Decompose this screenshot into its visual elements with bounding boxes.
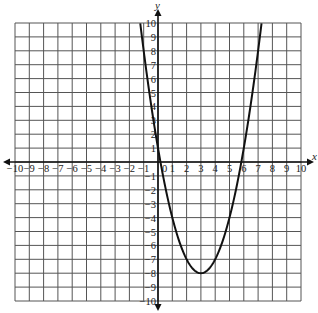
x-tick-label: 7 [255,163,260,174]
y-tick-label: −10 [140,296,156,307]
y-tick-label: −9 [145,282,156,293]
coordinate-plane-chart: −10−9−8−7−6−5−4−3−2−1012345678910−10−9−8… [0,0,318,313]
x-tick-label: −3 [110,163,121,174]
x-tick-label: 10 [296,163,307,174]
x-axis-label: x [311,150,317,162]
x-tick-label: 4 [213,163,219,174]
x-tick-label: −7 [52,163,63,174]
x-tick-label: 3 [198,163,203,174]
x-tick-label: −4 [95,163,107,174]
x-tick-label: 9 [284,163,289,174]
y-tick-label: 9 [151,32,156,43]
y-tick-label: 8 [151,46,156,57]
y-tick-label: −7 [145,254,156,265]
x-tick-label: −8 [38,163,49,174]
y-tick-label: −4 [145,213,157,224]
y-tick-label: −3 [145,199,156,210]
y-tick-label: 10 [146,18,157,29]
y-tick-label: 5 [151,88,156,99]
y-tick-label: −5 [145,227,156,238]
y-tick-label: −1 [145,171,156,182]
x-tick-label: 5 [227,163,232,174]
y-tick-label: 7 [151,60,156,71]
y-tick-label: −8 [145,268,156,279]
x-tick-label: −10 [7,163,23,174]
x-tick-label: 6 [241,163,246,174]
x-tick-label: 8 [270,163,275,174]
x-tick-label: −5 [81,163,92,174]
x-tick-label: −6 [67,163,78,174]
y-tick-label: −2 [145,185,156,196]
y-tick-label: 1 [151,143,156,154]
x-tick-label: 2 [184,163,189,174]
x-tick-label: −9 [24,163,35,174]
y-axis-label: y [154,0,160,11]
x-tick-label: −2 [124,163,135,174]
axes [3,9,314,311]
y-tick-label: 6 [151,74,156,85]
y-tick-label: −6 [145,240,156,251]
x-tick-label: 1 [170,163,175,174]
